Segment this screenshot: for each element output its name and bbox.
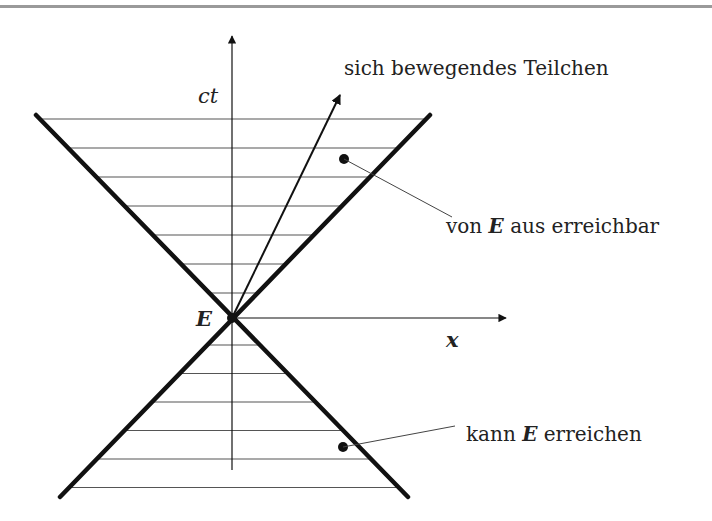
ct-axis-label: ct <box>198 84 219 108</box>
future-label-suffix: aus erreichbar <box>504 214 660 238</box>
event-point <box>227 313 237 323</box>
past-label-prefix: kann <box>466 422 522 446</box>
past-label-event: E <box>521 422 538 446</box>
future-label-prefix: von <box>445 214 489 238</box>
event-label: E <box>195 306 213 331</box>
past-leader-line <box>343 426 455 447</box>
future-cone-hatching <box>40 119 426 293</box>
cone-edge-right <box>60 115 430 497</box>
particle-label: sich bewegendes Teilchen <box>344 56 609 80</box>
future-cone-label: von E aus erreichbar <box>445 214 660 238</box>
light-cone-diagram: ct x E sich bewegendes Teilchen von E au… <box>0 0 712 521</box>
future-label-event: E <box>488 214 505 238</box>
cone-edge-left <box>36 115 408 497</box>
past-label-suffix: erreichen <box>537 422 641 446</box>
past-cone-hatching <box>69 345 399 488</box>
past-cone-label: kann E erreichen <box>466 422 642 446</box>
x-axis-label: x <box>445 327 459 352</box>
